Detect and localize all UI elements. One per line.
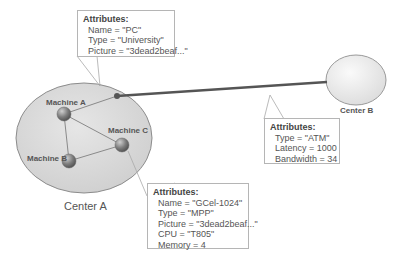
callout-center-a [77,56,100,86]
center-a-label: Center A [64,200,107,212]
attribute-name: Name = "GCel-1024" [153,198,243,209]
center-b-label: Center B [340,106,373,115]
attributes-title: Attributes: [83,14,169,25]
attribute-type: Type = "University" [83,35,169,46]
attribute-memory: Memory = 4 [153,240,243,251]
machine-a-label: Machine A [46,98,86,107]
machine-a-node[interactable] [57,107,71,121]
attribute-type: Type = "MPP" [153,208,243,219]
callout-link [264,95,284,119]
attribute-picture: Picture = "3dead2beaf..." [83,46,169,57]
link-attributes: Attributes: Type = "ATM" Latency = 1000 … [264,118,340,164]
center-a-attributes: Attributes: Name = "PC" Type = "Universi… [77,10,175,57]
attribute-latency: Latency = 1000 [270,143,334,154]
attributes-title: Attributes: [270,122,334,133]
attribute-name: Name = "PC" [83,25,169,36]
gateway-node [114,93,120,99]
machine-b-label: Machine B [27,154,67,163]
center-b-ellipse[interactable] [326,55,386,105]
machine-c-attributes: Attributes: Name = "GCel-1024" Type = "M… [147,183,249,249]
machine-c-node[interactable] [115,138,129,152]
atm-link[interactable] [117,82,327,96]
attribute-picture: Picture = "3dead2beaf..." [153,219,243,230]
attribute-cpu: CPU = "T805" [153,229,243,240]
attribute-type: Type = "ATM" [270,133,334,144]
machine-c-label: Machine C [108,126,148,135]
attribute-bandwidth: Bandwidth = 34 [270,154,334,165]
attributes-title: Attributes: [153,187,243,198]
